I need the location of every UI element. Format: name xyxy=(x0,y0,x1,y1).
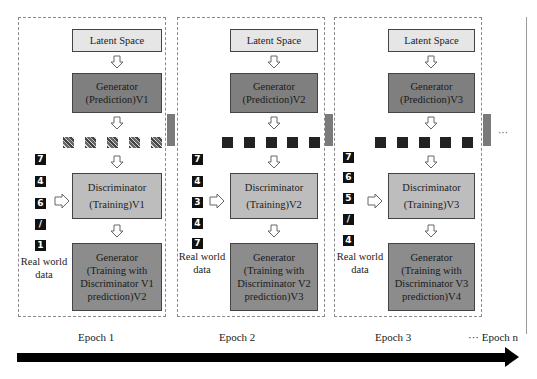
generator-prediction-box: Generator (Prediction)V1 xyxy=(72,73,162,113)
discriminator-box: Discriminator (Training)V1 xyxy=(72,173,162,219)
generated-sample-image xyxy=(419,137,430,148)
real-world-data-label: Real world data xyxy=(20,255,68,281)
epoch-label: ··· Epoch n xyxy=(468,331,518,343)
real-digit-image: / xyxy=(343,214,354,225)
generator-version-label: (Prediction)V2 xyxy=(243,93,306,106)
down-arrow-icon xyxy=(110,55,124,69)
down-arrow-icon xyxy=(110,224,124,238)
generator-training-box: Generator (Training with Discriminator V… xyxy=(72,243,162,311)
generated-sample-image xyxy=(222,137,233,148)
real-world-data-label: Real world data xyxy=(336,250,384,276)
epoch-label: Epoch 1 xyxy=(78,331,114,343)
right-arrow-icon xyxy=(367,193,383,209)
prediction-version-label: prediction)V3 xyxy=(245,290,304,303)
epoch-transition-connector xyxy=(167,114,175,146)
generator-training-box: Generator (Training with Discriminator V… xyxy=(230,243,318,311)
generated-sample-image xyxy=(309,137,320,148)
discriminator-box: Discriminator (Training)V2 xyxy=(230,173,318,219)
continuation-ellipsis: ··· xyxy=(498,127,508,138)
epoch-label: Epoch 3 xyxy=(375,331,411,343)
generated-sample-image xyxy=(462,137,473,148)
generated-sample-image xyxy=(375,137,386,148)
generated-sample-image xyxy=(397,137,408,148)
generator-prediction-box: Generator (Prediction)V3 xyxy=(388,73,475,113)
down-arrow-icon xyxy=(267,224,281,238)
generated-sample-image xyxy=(244,137,255,148)
data-text: data xyxy=(20,268,68,281)
generator-label: Generator xyxy=(411,80,453,93)
training-with-label: (Training with xyxy=(87,264,148,277)
down-arrow-icon xyxy=(267,116,281,130)
generator-label: Generator xyxy=(96,251,138,264)
real-digit-image: 1 xyxy=(35,240,46,251)
discriminator-box: Discriminator (Training)V3 xyxy=(388,173,475,219)
epoch-transition-connector xyxy=(483,114,491,146)
generator-label: Generator xyxy=(96,80,138,93)
generator-training-box: Generator (Training with Discriminator V… xyxy=(388,243,475,311)
generated-sample-image xyxy=(85,137,96,148)
generator-label: Generator xyxy=(253,80,295,93)
generated-sample-image xyxy=(151,137,162,148)
down-arrow-icon xyxy=(424,55,438,69)
right-arrow-icon xyxy=(209,193,225,209)
data-text: data xyxy=(178,263,226,276)
prediction-version-label: prediction)V4 xyxy=(402,290,461,303)
prediction-version-label: prediction)V2 xyxy=(88,290,147,303)
training-with-label: (Training with xyxy=(401,264,462,277)
generated-sample-image xyxy=(266,137,277,148)
discriminator-ref-label: Discriminator V3 xyxy=(395,277,469,290)
epoch-label: Epoch 2 xyxy=(219,331,255,343)
real-digit-image: 7 xyxy=(192,238,203,249)
latent-space-box: Latent Space xyxy=(230,29,318,52)
latent-space-box: Latent Space xyxy=(72,29,162,52)
generator-label: Generator xyxy=(253,251,295,264)
down-arrow-icon xyxy=(424,224,438,238)
frame-edge-line xyxy=(526,17,527,334)
generated-sample-image xyxy=(63,137,74,148)
generated-sample-image xyxy=(287,137,298,148)
down-arrow-icon xyxy=(424,116,438,130)
generated-sample-image xyxy=(107,137,118,148)
real-digit-image: 5 xyxy=(343,193,354,204)
real-digit-image: 4 xyxy=(192,176,203,187)
latent-space-box: Latent Space xyxy=(388,29,475,52)
latent-space-label: Latent Space xyxy=(247,34,302,47)
discriminator-version-label: (Training)V2 xyxy=(246,198,302,211)
discriminator-ref-label: Discriminator V1 xyxy=(80,277,154,290)
real-digit-image: 7 xyxy=(35,154,46,165)
real-digit-image: 4 xyxy=(343,235,354,246)
real-digit-image: 3 xyxy=(192,197,203,208)
real-digit-image: 6 xyxy=(343,172,354,183)
generated-sample-image xyxy=(129,137,140,148)
discriminator-version-label: (Training)V3 xyxy=(404,198,460,211)
generator-version-label: (Prediction)V1 xyxy=(86,93,149,106)
training-with-label: (Training with xyxy=(244,264,305,277)
right-arrow-icon xyxy=(54,193,70,209)
real-digit-image: 4 xyxy=(192,218,203,229)
down-arrow-icon xyxy=(424,155,438,169)
timeline-arrowhead-icon xyxy=(505,347,519,367)
discriminator-ref-label: Discriminator V2 xyxy=(237,277,311,290)
generator-version-label: (Prediction)V3 xyxy=(400,93,463,106)
generator-label: Generator xyxy=(411,251,453,264)
latent-space-label: Latent Space xyxy=(404,34,459,47)
timeline-arrow-shaft xyxy=(17,353,509,362)
real-world-text: Real world xyxy=(178,250,226,263)
discriminator-label: Discriminator xyxy=(245,181,303,194)
real-digit-image: 6 xyxy=(35,198,46,209)
down-arrow-icon xyxy=(110,155,124,169)
epoch-transition-connector xyxy=(325,114,333,146)
discriminator-label: Discriminator xyxy=(88,181,146,194)
latent-space-label: Latent Space xyxy=(90,34,145,47)
real-digit-image: 7 xyxy=(192,154,203,165)
discriminator-version-label: (Training)V1 xyxy=(89,198,145,211)
down-arrow-icon xyxy=(267,155,281,169)
generated-sample-image xyxy=(440,137,451,148)
discriminator-label: Discriminator xyxy=(402,181,460,194)
down-arrow-icon xyxy=(267,55,281,69)
generator-prediction-box: Generator (Prediction)V2 xyxy=(230,73,318,113)
real-world-text: Real world xyxy=(336,250,384,263)
real-digit-image: 7 xyxy=(343,152,354,163)
real-digit-image: 4 xyxy=(35,176,46,187)
real-world-data-label: Real world data xyxy=(178,250,226,276)
